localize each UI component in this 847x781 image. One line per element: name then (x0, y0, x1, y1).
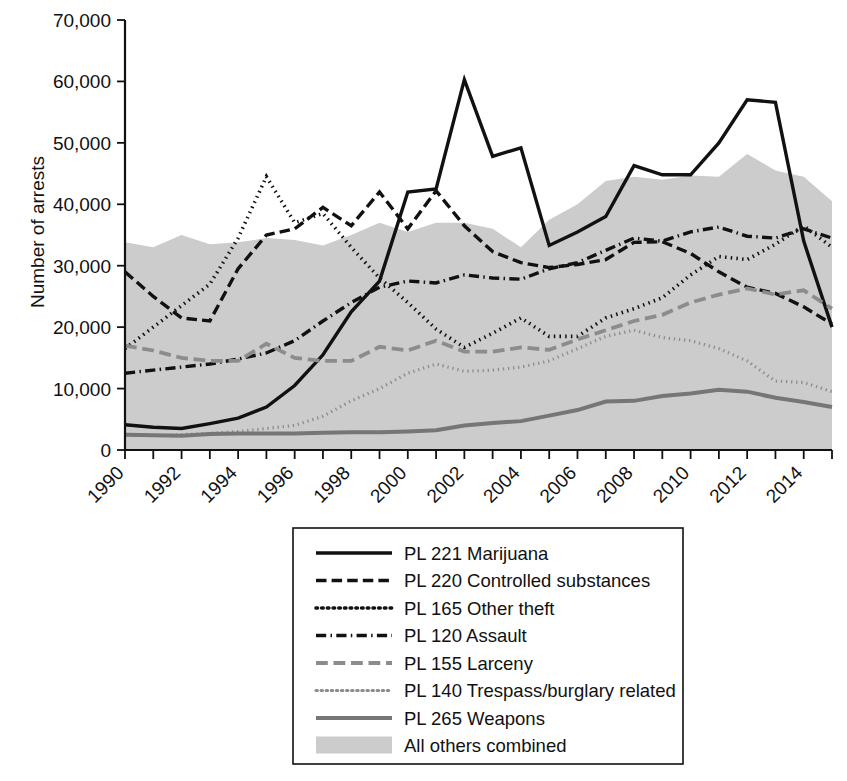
legend-item-label: All others combined (404, 735, 566, 756)
legend-swatch-area (316, 737, 392, 754)
y-tick-label: 30,000 (53, 256, 111, 277)
y-axis-title: Number of arrests (27, 156, 48, 308)
y-tick-label: 60,000 (53, 71, 111, 92)
legend-item-label: PL 265 Weapons (404, 708, 545, 729)
y-tick-label: 70,000 (53, 10, 111, 31)
y-tick-label: 20,000 (53, 317, 111, 338)
y-tick-label: 50,000 (53, 133, 111, 154)
legend-item-label: PL 165 Other theft (404, 598, 555, 619)
chart-legend: PL 221 MarijuanaPL 220 Controlled substa… (293, 528, 683, 764)
y-tick-label: 10,000 (53, 379, 111, 400)
legend-item-label: PL 155 Larceny (404, 653, 534, 674)
y-tick-label: 0 (100, 440, 111, 461)
legend-item-label: PL 140 Trespass/burglary related (404, 680, 676, 701)
legend-item-label: PL 221 Marijuana (404, 543, 549, 564)
arrests-by-penal-law-chart: Number of arrests 70,00060,00050,00040,0… (0, 0, 847, 781)
legend-item-label: PL 120 Assault (404, 625, 527, 646)
y-tick-label: 40,000 (53, 194, 111, 215)
legend-item-label: PL 220 Controlled substances (404, 570, 650, 591)
